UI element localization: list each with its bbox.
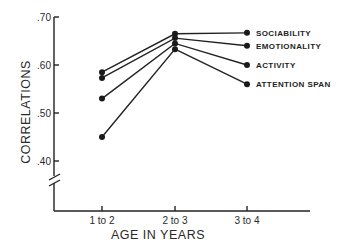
data-point	[99, 134, 105, 140]
y-tick-label: .70	[37, 12, 51, 23]
y-tick-label: .40	[37, 156, 51, 167]
y-axis-title: CORRELATIONS	[19, 60, 33, 164]
data-point	[244, 30, 250, 36]
legend: SOCIABILITYEMOTIONALITYACTIVITYATTENTION…	[256, 29, 331, 89]
data-point	[244, 81, 250, 87]
data-point	[172, 40, 178, 46]
data-point	[99, 69, 105, 75]
y-tick-label: .50	[37, 108, 51, 119]
data-point	[172, 35, 178, 41]
data-point	[172, 46, 178, 52]
legend-label: ACTIVITY	[256, 61, 296, 70]
series-line-attention-span	[102, 49, 247, 137]
x-axis-title: AGE IN YEARS	[111, 228, 205, 242]
y-ticks: .40.50.60.70	[37, 12, 59, 167]
chart: .40.50.60.70 1 to 22 to 33 to 4 SOCIABIL…	[0, 0, 358, 250]
x-ticks: 1 to 22 to 33 to 4	[89, 206, 259, 226]
legend-label: SOCIABILITY	[256, 29, 311, 38]
legend-label: EMOTIONALITY	[256, 42, 322, 51]
x-tick-label: 2 to 3	[162, 215, 187, 226]
data-point	[99, 96, 105, 102]
data-point	[244, 43, 250, 49]
data-point	[244, 62, 250, 68]
data-point	[99, 75, 105, 81]
series-group	[99, 30, 250, 140]
x-tick-label: 1 to 2	[89, 215, 114, 226]
legend-label: ATTENTION SPAN	[256, 80, 331, 89]
x-tick-label: 3 to 4	[234, 215, 259, 226]
y-tick-label: .60	[37, 60, 51, 71]
